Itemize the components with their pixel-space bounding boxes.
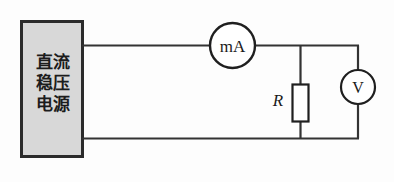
voltmeter-label: V <box>352 79 364 96</box>
circuit-diagram-figure: mA V R 直流 稳压 电源 <box>0 0 394 182</box>
ammeter-label: mA <box>220 37 246 56</box>
resistor-symbol <box>293 85 309 122</box>
resistor-label: R <box>272 91 284 110</box>
power-supply-label: 直流 稳压 电源 <box>24 52 82 115</box>
